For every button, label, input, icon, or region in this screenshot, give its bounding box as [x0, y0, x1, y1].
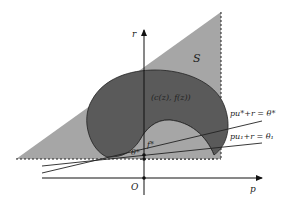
diagram-canvas: r p O S (c(z), f(z)) θ* f* pu*+r = θ* pu…	[0, 0, 290, 206]
theta-star-point	[142, 153, 146, 157]
origin-point	[142, 176, 146, 180]
feasible-set-label: S	[193, 52, 201, 65]
f-star-label: f*	[146, 140, 154, 149]
x-axis-label: p	[250, 184, 256, 194]
theta-star-label: θ*	[131, 148, 140, 157]
origin-label: O	[131, 182, 139, 192]
f-star-point	[142, 157, 146, 161]
line-1-label: pu₁+r = θ₁	[230, 132, 274, 141]
inner-set-label: (c(z), f(z))	[151, 93, 191, 102]
y-axis-label: r	[132, 29, 137, 39]
optimal-line-label: pu*+r = θ*	[230, 109, 275, 118]
